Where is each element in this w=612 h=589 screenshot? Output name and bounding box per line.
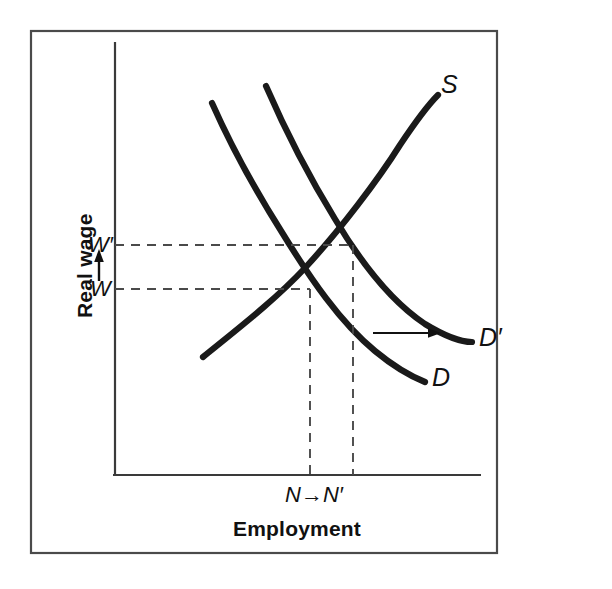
- demand-shift-arrow-icon: [373, 328, 441, 338]
- demand-curve-initial: [212, 103, 425, 382]
- y-axis-title: Real wage: [74, 213, 95, 318]
- demand-curve-shifted-label: D′: [479, 325, 502, 350]
- x-axis-title: Employment: [233, 518, 361, 539]
- demand-curve-initial-label: D: [432, 365, 450, 390]
- supply-curve-label: S: [441, 72, 458, 97]
- figure-container: Real wage Employment N→N′ W′ W S D′ D: [0, 0, 612, 589]
- demand-curve-shifted: [266, 86, 472, 342]
- employment-shift-label: N→N′: [285, 484, 343, 506]
- supply-curve: [203, 95, 438, 357]
- tick-label-wage-initial: W: [90, 278, 111, 300]
- tick-label-wage-new: W′: [88, 234, 113, 256]
